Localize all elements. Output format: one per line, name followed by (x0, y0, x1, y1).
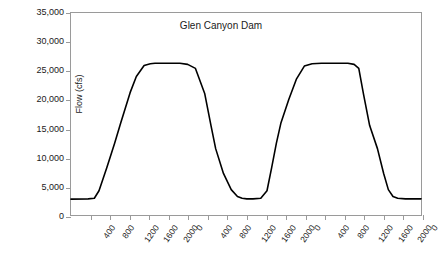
x-axis-tick-label: 1600 (279, 223, 298, 244)
x-axis-tick-mark (227, 215, 228, 220)
x-axis-tick-mark (286, 215, 287, 220)
x-axis-tick-label: 1200 (376, 223, 395, 244)
x-axis-tick-mark (267, 215, 268, 220)
chart-figure: Flow (cfs) 05,00010,00015,00020,00025,00… (0, 0, 442, 265)
y-axis-tick-label: 20,000 (36, 94, 64, 104)
x-axis-tick-label: 1200 (259, 223, 278, 244)
cropped-caption-remnant (0, 0, 442, 4)
x-axis-tick-mark (91, 215, 92, 220)
x-axis-tick-mark (208, 215, 209, 220)
y-axis-tick-label: 35,000 (36, 7, 64, 17)
x-axis-tick-mark (423, 215, 424, 220)
x-axis-tick-mark (364, 215, 365, 220)
x-axis-tick-mark (345, 215, 346, 220)
plot-area: Flow (cfs) 05,00010,00015,00020,00025,00… (70, 12, 422, 216)
y-axis-tick-label: 10,000 (36, 153, 64, 163)
y-axis-tick-label: 15,000 (36, 124, 64, 134)
series-svg (71, 13, 421, 215)
x-axis-tick-mark (149, 215, 150, 220)
y-axis-tick-mark (66, 217, 71, 218)
y-axis-tick-label: 30,000 (36, 36, 64, 46)
x-axis-tick-mark (130, 215, 131, 220)
x-axis-tick-mark (247, 215, 248, 220)
x-axis-tick-label: 400 (335, 223, 351, 240)
x-axis-tick-label: 1600 (161, 223, 180, 244)
x-axis-tick-label: 400 (218, 223, 234, 240)
x-axis-tick-label: 800 (120, 223, 136, 240)
x-axis-tick-mark (403, 215, 404, 220)
x-axis-tick-mark (306, 215, 307, 220)
x-axis-tick-mark (325, 215, 326, 220)
x-axis-tick-mark (384, 215, 385, 220)
x-axis-tick-label: 800 (237, 223, 253, 240)
x-axis-tick-label: 1600 (396, 223, 415, 244)
y-axis-tick-label: 5,000 (41, 182, 64, 192)
y-axis-tick-label: 25,000 (36, 65, 64, 75)
y-axis-tick-label: 0 (59, 211, 64, 221)
x-axis-tick-label: 1200 (142, 223, 161, 244)
x-axis-tick-mark (188, 215, 189, 220)
x-axis-tick-label: 400 (101, 223, 117, 240)
x-axis-tick-mark (110, 215, 111, 220)
x-axis-tick-label: 800 (355, 223, 371, 240)
flow-series-line (71, 63, 421, 199)
chart-title: Glen Canyon Dam (0, 20, 442, 31)
x-axis-tick-mark (169, 215, 170, 220)
